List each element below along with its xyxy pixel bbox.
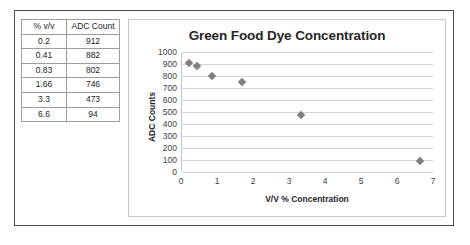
cell-concentration: 1.66 [22,78,67,93]
y-tick-label: 600 [143,96,177,105]
gridline [182,148,433,149]
cell-concentration: 6.6 [22,107,67,122]
table-row: 3.3473 [22,92,120,107]
gridline [182,160,433,161]
gridline [182,88,433,89]
y-tick-label: 700 [143,84,177,93]
y-tick-label: 0 [143,168,177,177]
x-tick-label: 2 [243,177,263,186]
plot-area [181,52,433,172]
x-tick-label: 7 [423,177,443,186]
cell-concentration: 0.41 [22,49,67,64]
table-row: 6.694 [22,107,120,122]
gridline [182,52,433,53]
data-point-marker [238,78,246,86]
gridline [182,172,433,173]
cell-concentration: 0.2 [22,34,67,49]
x-tick-label: 6 [387,177,407,186]
gridline [182,64,433,65]
data-point-marker [208,72,216,80]
y-tick-label: 900 [143,60,177,69]
y-tick-label: 800 [143,72,177,81]
y-tick-label: 500 [143,108,177,117]
table-row: 0.83802 [22,63,120,78]
x-tick-label: 3 [279,177,299,186]
x-tick-label: 1 [207,177,227,186]
data-table: % v/v ADC Count 0.29120.418820.838021.66… [21,19,120,122]
gridline [182,124,433,125]
column-header-adc-count: ADC Count [67,20,120,35]
column-header-concentration: % v/v [22,20,67,35]
gridline [182,76,433,77]
cell-concentration: 3.3 [22,92,67,107]
gridline [182,112,433,113]
x-axis-tick-labels: 01234567 [181,177,433,189]
y-tick-label: 400 [143,120,177,129]
table-row: 0.41882 [22,49,120,64]
y-tick-label: 1000 [143,48,177,57]
gridline [182,100,433,101]
cell-adc-count: 746 [67,78,120,93]
table-header-row: % v/v ADC Count [22,20,120,35]
chart-title: Green Food Dye Concentration [129,28,445,43]
cell-adc-count: 473 [67,92,120,107]
y-axis-tick-labels: 10009008007006005004003002001000 [141,52,177,172]
table-row: 0.2912 [22,34,120,49]
x-axis-title: V/V % Concentration [181,194,433,204]
gridline [182,136,433,137]
y-tick-label: 300 [143,132,177,141]
chart-container: Green Food Dye Concentration ADC Counts … [128,19,446,217]
y-tick-label: 200 [143,144,177,153]
table-body: 0.29120.418820.838021.667463.34736.694 [22,34,120,122]
x-tick-label: 4 [315,177,335,186]
cell-adc-count: 912 [67,34,120,49]
cell-concentration: 0.83 [22,63,67,78]
cell-adc-count: 94 [67,107,120,122]
cell-adc-count: 882 [67,49,120,64]
document-page: % v/v ADC Count 0.29120.418820.838021.66… [14,10,454,226]
x-tick-label: 0 [171,177,191,186]
y-tick-label: 100 [143,156,177,165]
cell-adc-count: 802 [67,63,120,78]
data-point-marker [415,156,423,164]
x-tick-label: 5 [351,177,371,186]
table-row: 1.66746 [22,78,120,93]
